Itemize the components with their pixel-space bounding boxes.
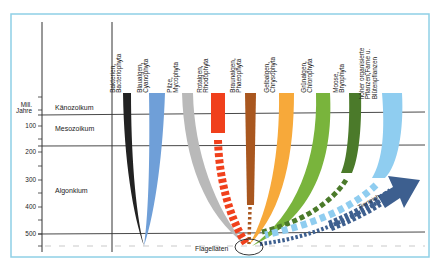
tick-400: 400 [10,203,36,210]
band-bacteriophyta [123,93,144,246]
tick-200: 200 [10,148,36,155]
group-label-higher-plants: höher organisiertePflanzen,Farne u.Blüte… [359,48,378,100]
axis-unit-label: Mill. Jahre [6,102,32,115]
era-mesozoikum: Mesozoikum [55,125,94,132]
band-cyanophyta [144,93,165,246]
diagram-canvas [0,0,440,274]
band-phaeophyta [245,93,256,205]
axis-ticks [38,97,42,246]
flagellaten-origin-ellipse [235,239,263,255]
band-phaeophyta-dashed [249,207,250,244]
tick-300: 300 [10,176,36,183]
tick-500: 500 [10,230,36,237]
mesozoikum-boundary [38,145,425,146]
band-higher-plants [372,93,402,178]
group-label-phaeophyta: Braunalgen,Phaeophyta [230,58,243,92]
era-algonkium: Algonkium [55,187,88,194]
band-rhodophyta [211,93,225,133]
band-bryophyta [341,93,361,173]
era-kaenozoikum: Känozoikum [55,104,94,111]
group-label-rhodophyta: Rotalgen,Rhodophyta [197,58,210,92]
phylogeny-diagram: Mill. Jahre 100 200 300 400 500 Känozoik… [0,0,440,274]
kaenozoikum-boundary [38,112,425,115]
group-label-bryophyta: Moose,Bryophyta [333,64,346,93]
group-label-chlorophyta: Grünalgen,Chlorophyta [301,58,314,92]
group-label-chrysophyta: Gelbalgen,Chrysophyta [264,57,277,93]
flagellaten-label: Flagellaten [195,245,228,252]
axis-unit-line2: Jahre [16,107,32,114]
group-label-bacteriophyta: Bakterien,Bacteriophyta [110,54,123,93]
tick-100: 100 [10,122,36,129]
group-label-mycophyta: Pilze,Mycophyta [167,62,180,93]
group-label-cyanophyta: Blaualgen,Cyanophyta [137,59,150,93]
